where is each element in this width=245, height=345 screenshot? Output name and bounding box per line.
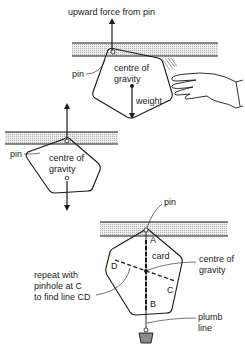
point-b-label: B bbox=[150, 299, 156, 309]
plumb-line-label-line1: plumb bbox=[198, 312, 223, 322]
centre-of-gravity-dot bbox=[144, 269, 148, 273]
card-pentagon bbox=[106, 229, 183, 315]
pin-icon bbox=[144, 228, 148, 232]
weight-label: weight bbox=[135, 96, 163, 106]
cog-label-line1: centre of bbox=[199, 254, 235, 264]
cog-label-line2: gravity bbox=[199, 265, 226, 275]
diagram-canvas: upward force from pin pin centre of grav… bbox=[0, 0, 245, 345]
cog-label-line1: centre of bbox=[114, 63, 150, 73]
centre-of-gravity-dot bbox=[130, 84, 134, 88]
panel-3-plumb-line-method: pin A B C D card centre of gravity repea… bbox=[34, 197, 235, 343]
point-c-label: C bbox=[167, 285, 174, 295]
pin-label: pin bbox=[72, 69, 84, 79]
repeat-instruction-line3: to find line CD bbox=[34, 292, 91, 302]
support-bar bbox=[100, 222, 228, 236]
pin-icon bbox=[65, 139, 69, 143]
support-bar bbox=[5, 132, 118, 144]
card-label: card bbox=[152, 251, 170, 261]
upward-force-label: upward force from pin bbox=[68, 7, 155, 17]
cog-label-line2: gravity bbox=[49, 164, 76, 174]
plumb-weight-icon bbox=[139, 333, 153, 343]
plumb-hook-icon bbox=[144, 328, 148, 332]
support-bar bbox=[72, 43, 218, 56]
panel-2-hanging-card: pin centre of gravity bbox=[5, 106, 118, 208]
panel-1-pushed-card: upward force from pin pin centre of grav… bbox=[68, 7, 243, 118]
repeat-instruction-line2: pinhole at C bbox=[34, 281, 83, 291]
plumb-line-label-line2: line bbox=[198, 323, 212, 333]
centre-of-gravity-dot bbox=[65, 176, 69, 180]
pin-label: pin bbox=[164, 197, 176, 207]
cog-label-line1: centre of bbox=[49, 153, 85, 163]
pin-label: pin bbox=[10, 149, 22, 159]
pushing-hand-icon bbox=[172, 73, 243, 108]
pin-icon bbox=[111, 50, 115, 54]
cog-label-line2: gravity bbox=[114, 74, 141, 84]
point-a-label: A bbox=[150, 235, 156, 245]
repeat-instruction-line1: repeat with bbox=[34, 270, 78, 280]
point-d-label: D bbox=[111, 261, 118, 271]
